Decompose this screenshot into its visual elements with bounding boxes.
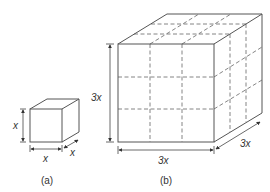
small-depth-label: x xyxy=(69,147,76,158)
small-cube xyxy=(30,99,79,142)
large-width-label: 3x xyxy=(158,155,170,166)
small-cube-dimensions xyxy=(20,109,78,152)
caption-b: (b) xyxy=(160,175,172,186)
front-face-grid xyxy=(118,44,214,142)
large-cube-dimensions xyxy=(106,44,260,154)
cube-diagram: x x x (a) xyxy=(0,0,270,192)
top-face-grid xyxy=(134,14,246,44)
small-width-label: x xyxy=(42,153,49,164)
small-cube-front-face xyxy=(30,109,62,142)
small-cube-top-face xyxy=(30,99,79,109)
side-face-grid xyxy=(214,24,262,132)
large-cube xyxy=(118,14,262,142)
large-cube-side-face xyxy=(214,14,262,142)
large-cube-front-face xyxy=(118,44,214,142)
large-depth-arrow xyxy=(216,122,260,149)
small-height-label: x xyxy=(12,120,19,131)
large-height-label: 3x xyxy=(91,92,103,103)
caption-a: (a) xyxy=(41,175,53,186)
small-cube-side-face xyxy=(62,99,79,142)
large-depth-label: 3x xyxy=(240,138,252,149)
